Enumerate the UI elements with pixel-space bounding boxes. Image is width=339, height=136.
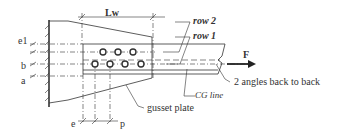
force-label: F [243, 50, 249, 60]
e1-label: e1 [18, 36, 27, 46]
b-label: b [21, 61, 26, 71]
angles-label: 2 angles back to back [234, 77, 320, 87]
row2-label: row 2 [193, 16, 216, 26]
cg-line-label: CG line [195, 91, 223, 100]
bolt-row1 [138, 61, 144, 67]
bolt-row1 [122, 61, 128, 67]
bolt-holes [92, 49, 144, 67]
p-label: p [120, 119, 125, 129]
arrow-head-icon [248, 60, 256, 68]
cg-leader [184, 69, 195, 96]
e-label: e [71, 119, 75, 129]
lw-label: Lw [105, 8, 119, 18]
gusset-plate-label: gusset plate [147, 103, 194, 113]
connection-diagram [0, 0, 339, 136]
bolt-row2 [130, 49, 136, 55]
gusset-plate [49, 21, 152, 103]
bolt-row2 [100, 49, 106, 55]
a-label: a [21, 76, 25, 86]
gusset-leader [126, 85, 144, 108]
row1-label: row 1 [193, 31, 216, 41]
bolt-row2 [115, 49, 121, 55]
bolt-row1 [92, 61, 98, 67]
bolt-row1 [107, 61, 113, 67]
